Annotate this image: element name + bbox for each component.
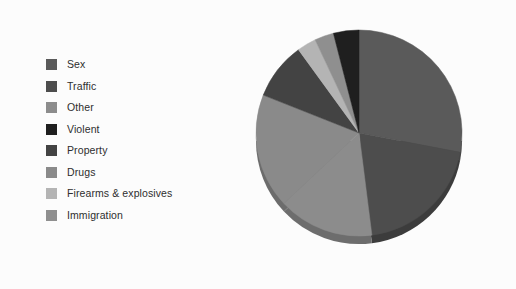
- legend-item-label: Immigration: [67, 210, 123, 221]
- legend-swatch-icon: [46, 59, 57, 70]
- legend-item[interactable]: Violent: [46, 119, 231, 141]
- legend-swatch-icon: [46, 124, 57, 135]
- legend-item[interactable]: Traffic: [46, 76, 231, 98]
- legend-item[interactable]: Immigration: [46, 205, 231, 227]
- legend-item-label: Property: [67, 145, 107, 156]
- legend-item[interactable]: Drugs: [46, 162, 231, 184]
- legend-swatch-icon: [46, 188, 57, 199]
- legend-item-label: Violent: [67, 124, 100, 135]
- legend-swatch-icon: [46, 102, 57, 113]
- legend-swatch-icon: [46, 145, 57, 156]
- legend-item[interactable]: Other: [46, 97, 231, 119]
- legend-item-label: Drugs: [67, 167, 96, 178]
- legend-item[interactable]: Firearms & explosives: [46, 183, 231, 205]
- legend-item-label: Other: [67, 102, 94, 113]
- chart-canvas: SexTrafficOtherViolentPropertyDrugsFirea…: [0, 0, 516, 289]
- legend-item-label: Firearms & explosives: [67, 188, 172, 199]
- pie-chart-svg: [252, 26, 472, 256]
- legend-swatch-icon: [46, 167, 57, 178]
- legend-item-label: Traffic: [67, 81, 96, 92]
- pie-slice[interactable]: [359, 30, 462, 152]
- legend-item-label: Sex: [67, 59, 85, 70]
- legend-item[interactable]: Property: [46, 140, 231, 162]
- plot-area: SexTrafficOtherViolentPropertyDrugsFirea…: [0, 0, 516, 289]
- legend-swatch-icon: [46, 81, 57, 92]
- legend-item[interactable]: Sex: [46, 54, 231, 76]
- pie-chart: [252, 26, 472, 256]
- legend-swatch-icon: [46, 210, 57, 221]
- pie-slice-layer: [256, 30, 462, 236]
- chart-legend: SexTrafficOtherViolentPropertyDrugsFirea…: [46, 54, 231, 226]
